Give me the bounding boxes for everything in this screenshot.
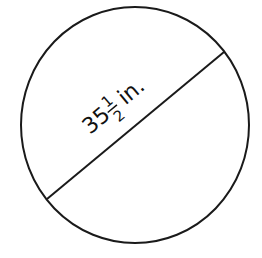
circle-diagram: 35 1 2 in. bbox=[0, 0, 262, 258]
diameter-label: 35 1 2 in. bbox=[75, 70, 155, 145]
label-denominator: 2 bbox=[110, 106, 129, 126]
label-unit: in. bbox=[113, 73, 150, 110]
diameter-line bbox=[47, 52, 224, 199]
